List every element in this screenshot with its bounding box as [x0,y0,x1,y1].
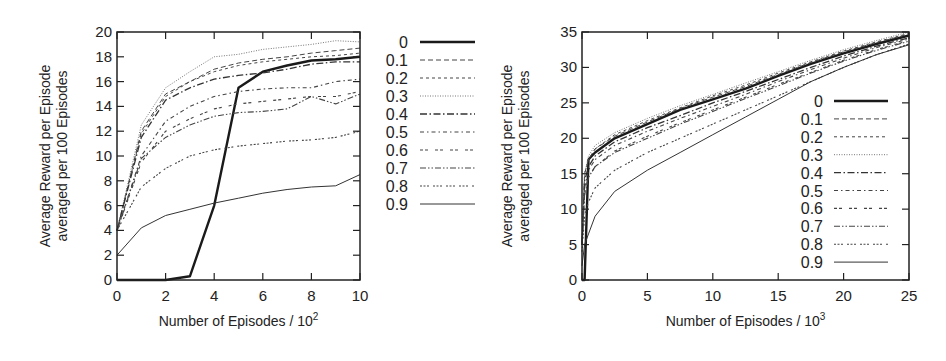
x-tick-label: 10 [704,287,721,304]
series-line-0.2 [117,53,360,230]
plot-frame [582,32,909,280]
legend: 00.10.20.30.40.50.60.70.80.9 [801,93,888,271]
x-tick-label: 10 [352,287,369,304]
chart-left: 024681012141618200246810Number of Episod… [37,23,475,329]
legend-label: 0.4 [386,106,408,123]
series-line-0.4 [582,38,909,245]
y-tick-label: 2 [104,246,112,263]
legend-label: 0.5 [801,183,823,200]
plot-frame [117,32,360,280]
series-line-0.9 [582,45,909,266]
series-line-0.1 [582,34,909,245]
y-tick-label: 25 [560,94,577,111]
x-tick-label: 20 [835,287,852,304]
y-tick-label: 35 [560,23,577,40]
y-tick-label: 12 [95,122,112,139]
x-tick-label: 5 [643,287,651,304]
y-tick-label: 20 [560,129,577,146]
y-tick-label: 15 [560,165,577,182]
y-tick-label: 10 [560,200,577,217]
x-tick-label: 4 [210,287,218,304]
legend-label: 0 [814,93,823,110]
legend-label: 0.7 [801,218,823,235]
legend-label: 0.5 [386,124,408,141]
series-line-0.5 [117,79,360,230]
x-tick-label: 0 [113,287,121,304]
y-tick-label: 18 [95,48,112,65]
y-axis-label: Average Reward per Episode [499,64,515,247]
series-line-0.6 [582,41,909,245]
legend-label: 0.4 [801,165,823,182]
y-tick-label: 4 [104,221,112,238]
legend-label: 0 [399,34,408,51]
legend-label: 0.2 [386,70,408,87]
series-line-0 [582,36,909,281]
x-axis-label: Number of Episodes / 103 [666,311,826,329]
x-tick-label: 8 [307,287,315,304]
y-tick-label: 0 [104,271,112,288]
legend: 00.10.20.30.40.50.60.70.80.9 [386,34,475,213]
x-axis-label: Number of Episodes / 102 [159,311,319,329]
y-tick-label: 30 [560,58,577,75]
legend-label: 0.9 [386,196,408,213]
series-line-0.3 [117,41,360,231]
series-line-0.5 [582,39,909,245]
series-line-0 [117,57,360,280]
legend-label: 0.1 [801,111,823,128]
y-tick-label: 10 [95,147,112,164]
x-tick-label: 15 [770,287,787,304]
y-tick-label: 14 [95,97,112,114]
y-axis-label: averaged per 100 Episodes [516,70,532,241]
legend-label: 0.6 [801,200,823,217]
y-tick-label: 0 [569,271,577,288]
legend-label: 0.9 [801,254,823,271]
plot-area [117,41,360,280]
y-axis-label: Average Reward per Episode [37,64,53,247]
figure: 024681012141618200246810Number of Episod… [0,0,946,361]
y-tick-label: 5 [569,236,577,253]
x-tick-label: 25 [901,287,918,304]
x-tick-label: 0 [578,287,586,304]
y-tick-label: 8 [104,172,112,189]
legend-label: 0.8 [801,236,823,253]
y-tick-label: 16 [95,73,112,90]
legend-label: 0.2 [801,129,823,146]
legend-label: 0.7 [386,160,408,177]
x-tick-label: 2 [161,287,169,304]
legend-label: 0.3 [801,147,823,164]
plot-area [582,32,909,280]
y-tick-label: 20 [95,23,112,40]
legend-label: 0.6 [386,142,408,159]
legend-label: 0.1 [386,52,408,69]
legend-label: 0.8 [386,178,408,195]
series-line-0.9 [117,175,360,256]
y-axis-label: averaged per 100 Episodes [54,70,70,241]
series-line-0.2 [582,33,909,244]
x-tick-label: 6 [259,287,267,304]
legend-label: 0.3 [386,88,408,105]
chart-right: 051015202530350510152025Number of Episod… [499,23,917,329]
series-line-0.7 [582,41,909,244]
series-line-0.8 [582,44,909,252]
y-tick-label: 6 [104,197,112,214]
